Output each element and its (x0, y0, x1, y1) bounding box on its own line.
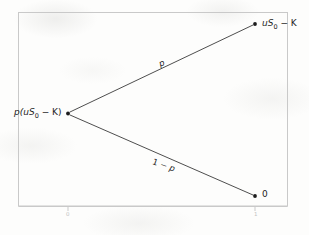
root-label-prefix: p(u (14, 107, 29, 117)
lower-terminal-label: 0 (262, 190, 268, 199)
upper-terminal-label-suffix: − K (278, 18, 297, 28)
upper-terminal-label: uS0 − K (262, 19, 297, 30)
binomial-tree-figure: uS0 − K p(uS0 − K) 0 p 1 − p 0 1 (0, 0, 309, 235)
x-axis-tick-label-1: 1 (254, 212, 258, 218)
node-dot-root (66, 112, 70, 116)
root-label-suffix: − K) (39, 107, 62, 117)
edge-down-branch (70, 115, 253, 195)
root-node-label: p(uS0 − K) (14, 108, 61, 119)
x-axis-tick-label-0: 0 (66, 212, 70, 218)
node-dot-lower-terminal (253, 194, 257, 198)
node-dot-upper-terminal (253, 22, 257, 26)
edge-up-branch (70, 25, 253, 112)
